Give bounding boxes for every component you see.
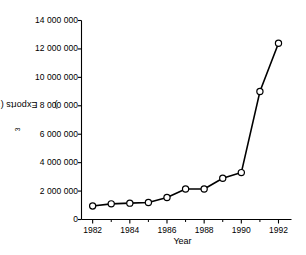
data-point-marker [220, 175, 226, 181]
data-point-marker [182, 186, 188, 192]
data-point-marker [164, 194, 170, 200]
data-series-line [93, 43, 279, 206]
data-point-marker [275, 40, 281, 46]
plot-area [0, 0, 306, 255]
data-line-path [93, 43, 279, 206]
x-axis-tick-marks [93, 220, 279, 224]
data-point-marker [238, 169, 244, 175]
chart-figure: Exports (×103) 02 000 0004 000 0006 000 … [0, 0, 306, 255]
data-point-marker [145, 199, 151, 205]
data-point-marker [257, 88, 263, 94]
data-point-marker [127, 200, 133, 206]
data-point-marker [201, 186, 207, 192]
data-point-marker [108, 201, 114, 207]
data-point-marker [90, 203, 96, 209]
